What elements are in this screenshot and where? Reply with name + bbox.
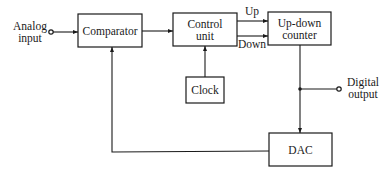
up-signal-label: Up [245,5,259,18]
clock-to-control-wire [203,46,207,77]
comparator-label: Comparator [83,25,138,38]
analog-input-terminal [49,30,53,34]
up-signal-wire [237,19,268,23]
clock-block: Clock [186,77,224,103]
control-unit-label: Control [187,18,222,30]
comparator-to-control-wire [142,29,173,33]
down-signal-label: Down [238,38,266,50]
digital-output-label-2: output [348,88,378,101]
junction-dot [298,87,302,91]
control-unit-label-2: unit [196,30,215,42]
analog-input-label-2: input [18,32,42,45]
analog-input-wire [53,30,78,34]
clock-label: Clock [191,84,219,96]
adc-block-diagram: Analog input Comparator Control unit Up … [0,0,390,174]
control-unit-block: Control unit [173,13,237,46]
digital-output-terminal [337,87,341,91]
counter-label-2: counter [282,29,317,41]
up-down-counter-block: Up-down counter [268,12,331,45]
comparator-block: Comparator [78,14,142,47]
dac-block: DAC [269,133,332,166]
dac-label: DAC [288,144,313,156]
